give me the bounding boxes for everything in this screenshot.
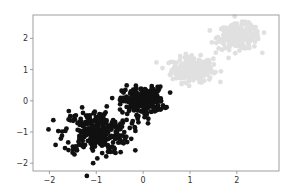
data-point — [95, 115, 100, 120]
data-point — [111, 118, 116, 123]
data-point — [181, 73, 186, 78]
data-point — [97, 140, 102, 145]
data-point — [80, 105, 85, 110]
data-point — [166, 61, 171, 66]
data-point — [109, 135, 114, 140]
data-point — [152, 109, 157, 114]
data-point — [219, 69, 224, 74]
data-point — [123, 137, 128, 142]
x-tick-label: −2 — [44, 176, 56, 185]
data-point — [64, 126, 69, 131]
data-point — [89, 134, 94, 139]
data-point — [63, 146, 68, 151]
data-point — [213, 70, 218, 75]
data-point — [184, 81, 189, 86]
x-tick-label: 0 — [141, 176, 146, 185]
data-point — [93, 125, 98, 130]
data-point — [133, 99, 138, 104]
data-point — [233, 51, 238, 56]
data-point — [154, 60, 159, 65]
data-point — [100, 151, 105, 156]
data-point — [178, 54, 183, 59]
data-point — [89, 126, 94, 131]
data-point — [127, 126, 132, 131]
data-point — [238, 26, 243, 31]
data-point — [81, 111, 86, 116]
x-tick-label: 1 — [187, 176, 192, 185]
data-point — [133, 148, 138, 153]
y-tick-label: 0 — [23, 97, 28, 106]
data-point — [213, 50, 218, 55]
data-point — [176, 66, 181, 71]
data-point — [226, 56, 231, 61]
data-point — [235, 42, 240, 47]
data-point — [243, 20, 248, 25]
data-point — [140, 88, 145, 93]
data-point — [147, 102, 152, 107]
data-point — [46, 127, 51, 132]
data-point — [159, 106, 164, 111]
data-point — [220, 47, 225, 52]
data-point — [133, 125, 138, 130]
data-point — [123, 88, 128, 93]
data-point — [160, 66, 165, 71]
data-point — [223, 33, 228, 38]
data-point — [182, 55, 187, 60]
data-point — [252, 44, 257, 49]
data-point — [207, 65, 212, 70]
data-point — [158, 99, 163, 104]
data-point — [218, 80, 223, 85]
data-point — [241, 45, 246, 50]
data-point — [124, 118, 129, 123]
data-point — [192, 56, 197, 61]
data-point — [101, 113, 106, 118]
data-point — [73, 113, 78, 118]
data-point — [182, 62, 187, 67]
data-point — [217, 39, 222, 44]
data-point — [250, 32, 255, 37]
data-point — [118, 150, 123, 155]
data-point — [113, 122, 118, 127]
data-point — [262, 30, 267, 35]
data-point — [104, 104, 109, 109]
data-point — [199, 75, 204, 80]
data-point — [66, 109, 71, 114]
data-point — [207, 61, 212, 66]
data-point — [129, 89, 134, 94]
data-point — [125, 111, 130, 116]
data-point — [95, 156, 100, 161]
y-tick-label: 2 — [23, 34, 28, 43]
data-point — [111, 140, 116, 145]
data-point — [163, 106, 168, 111]
data-point — [208, 70, 213, 75]
data-point — [92, 109, 97, 114]
data-point — [211, 62, 216, 67]
data-point — [175, 72, 180, 77]
data-point — [129, 136, 134, 141]
data-point — [130, 119, 135, 124]
y-tick-label: −1 — [16, 128, 28, 137]
data-point — [260, 50, 265, 55]
data-point — [101, 119, 106, 124]
data-point — [221, 28, 226, 33]
data-point — [112, 150, 117, 155]
data-point — [168, 90, 173, 95]
data-point — [75, 121, 80, 126]
data-point — [81, 144, 86, 149]
data-point — [191, 61, 196, 66]
data-point — [80, 124, 85, 129]
data-point — [80, 134, 85, 139]
data-point — [105, 131, 110, 136]
data-point — [198, 53, 203, 58]
data-point — [118, 102, 123, 107]
data-point — [214, 36, 219, 41]
data-point — [145, 96, 150, 101]
data-point — [225, 37, 230, 42]
data-point — [58, 136, 63, 141]
data-point — [146, 121, 151, 126]
data-point — [80, 129, 85, 134]
data-point — [169, 72, 174, 77]
data-point — [124, 99, 129, 104]
data-point — [134, 86, 139, 91]
data-point — [53, 143, 58, 148]
